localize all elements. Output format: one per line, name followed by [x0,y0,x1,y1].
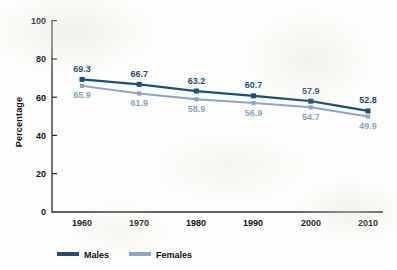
x-tick-label: 1990 [243,218,263,228]
y-tick-label: 100 [31,16,46,26]
chart-legend: Males Females [57,250,192,260]
data-point-marker [194,97,198,101]
data-point-marker [308,99,313,104]
y-tick-label: 0 [41,207,46,217]
y-tick-label: 40 [36,131,46,141]
x-tick-label: 1970 [129,218,149,228]
x-tick-label: 2010 [358,218,378,228]
chart-axes [52,20,383,212]
axis-lines [52,20,383,212]
data-point-label: 58.9 [188,104,206,114]
legend-swatch-males [57,252,79,256]
y-axis-title: Percentage [14,97,24,148]
data-point-label: 57.9 [302,86,320,96]
data-point-marker [366,114,370,118]
legend-label-males: Males [84,250,109,260]
data-point-marker [194,89,199,94]
data-point-label: 65.9 [73,90,91,100]
data-point-label: 69.3 [73,64,91,74]
data-point-label: 63.2 [188,76,206,86]
y-axis-tickmarks [52,21,57,174]
y-tick-label: 20 [36,169,46,179]
legend-label-females: Females [156,250,192,260]
data-point-label: 52.8 [359,95,377,105]
data-point-marker [137,91,141,95]
x-tick-label: 1980 [186,218,206,228]
data-point-marker [251,93,256,98]
series-females [80,84,370,119]
line-chart: 100 80 60 40 20 0 Percentage 1960 1970 1… [0,0,397,270]
legend-item-females[interactable]: Females [129,250,192,260]
data-point-marker [80,77,85,82]
data-point-label: 54.7 [302,112,320,122]
males-line [82,79,368,111]
y-tick-label: 60 [36,93,46,103]
data-point-label: 61.9 [130,98,148,108]
data-point-marker [252,101,256,105]
data-point-label: 66.7 [130,69,148,79]
data-point-marker [80,84,84,88]
females-line [82,86,368,117]
chart-svg: 100 80 60 40 20 0 Percentage 1960 1970 1… [0,0,397,270]
legend-swatch-females [129,252,151,256]
x-axis-tick-labels: 1960 1970 1980 1990 2000 2010 [72,218,378,228]
data-point-marker [137,82,142,87]
x-tick-label: 2000 [301,218,321,228]
y-axis-tick-labels: 100 80 60 40 20 0 [31,16,46,217]
x-tick-label: 1960 [72,218,92,228]
legend-item-males[interactable]: Males [57,250,109,260]
data-point-marker [309,105,313,109]
data-point-marker [366,108,371,113]
data-point-label: 49.9 [359,121,377,131]
data-point-label: 56.9 [245,108,263,118]
data-point-label: 60.7 [245,80,263,90]
males-data-labels: 69.366.763.260.757.952.8 [73,64,377,106]
series-males [80,77,371,114]
y-tick-label: 80 [36,54,46,64]
